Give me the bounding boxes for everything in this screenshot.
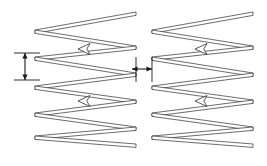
- diagram-canvas: [0, 0, 267, 166]
- figure-background: [0, 0, 267, 166]
- zigzag-scan-path-figure: [0, 0, 267, 166]
